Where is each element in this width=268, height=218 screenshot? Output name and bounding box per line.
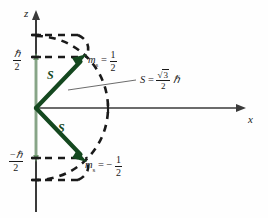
hbar-numerator-lower: −ℏ bbox=[9, 149, 23, 162]
spin-up-vector-label: S bbox=[47, 69, 54, 81]
hbar-denominator-lower: 2 bbox=[9, 162, 23, 174]
x-axis-label: x bbox=[248, 114, 253, 125]
z-tick-label-plus-h-over-2: ℏ 2 bbox=[13, 48, 21, 72]
z-axis-arrowhead bbox=[32, 10, 40, 20]
hbar-numerator-upper: ℏ bbox=[13, 48, 21, 61]
spin-down-vector bbox=[36, 108, 87, 162]
x-axis-arrowhead bbox=[236, 104, 246, 112]
dashed-top-cone-arc bbox=[78, 35, 88, 58]
x-axis bbox=[36, 104, 246, 112]
ms-up-denominator: 2 bbox=[110, 62, 117, 74]
z-axis-label: z bbox=[24, 8, 28, 19]
magnitude-radicand: 3 bbox=[162, 69, 169, 80]
magnitude-leader-line bbox=[68, 80, 136, 90]
ms-up-symbol: m bbox=[88, 54, 96, 65]
spin-vector-diagram: z x ℏ 2 −ℏ 2 S S ms = 1 2 ms = − 1 2 S = bbox=[0, 0, 268, 218]
diagram-canvas bbox=[0, 0, 268, 218]
magnitude-numerator: √3 bbox=[156, 70, 169, 81]
ms-down-symbol: m bbox=[85, 159, 93, 170]
z-tick-label-minus-h-over-2: −ℏ 2 bbox=[9, 149, 23, 173]
spin-up-vector bbox=[36, 54, 87, 108]
spin-down-vector-label: S bbox=[58, 122, 65, 134]
ms-down-numerator: 1 bbox=[115, 154, 122, 167]
hbar-denominator-upper: 2 bbox=[13, 61, 21, 73]
magnitude-annotation-label: S = √3 2 ℏ bbox=[140, 70, 180, 92]
ms-down-label: ms = − 1 2 bbox=[85, 154, 122, 178]
magnitude-hbar-unit: ℏ bbox=[173, 74, 180, 85]
ms-up-label: ms = 1 2 bbox=[88, 49, 117, 73]
ms-down-denominator: 2 bbox=[115, 167, 122, 179]
hbar-glyph-lower: ℏ bbox=[16, 149, 22, 160]
ms-up-numerator: 1 bbox=[110, 49, 117, 62]
magnitude-denominator: 2 bbox=[156, 81, 169, 91]
